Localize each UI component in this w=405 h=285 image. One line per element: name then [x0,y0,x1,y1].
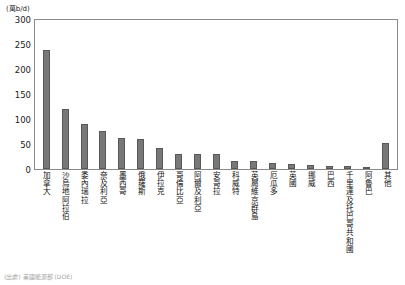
bar-chart-figure: (萬b/d) 300 250 200 150 100 50 0 加拿大沙烏地阿拉… [0,0,405,285]
bar-slot [320,20,339,169]
x-axis-tick-label: 委內瑞拉 [80,171,88,204]
x-axis-label-slot: 千里達及托巴哥共和國 [339,171,358,263]
bar [62,109,69,169]
x-axis-label-slot: 其他 [377,171,396,263]
x-axis-label-slot: 安哥拉 [207,171,226,263]
bar-slot [131,20,150,169]
x-axis-tick-label: 加拿大 [42,171,50,196]
x-axis-tick-label: 伊拉克 [155,171,163,196]
bar-slot [169,20,188,169]
x-axis-label-slot: 俄羅斯 [131,171,150,263]
bar [326,166,333,169]
bar [213,154,220,169]
bar-slot [244,20,263,169]
x-axis-tick-label: 俄羅斯 [136,171,144,196]
x-axis-tick-label: 沙烏地阿拉伯 [61,171,69,220]
bar [382,143,389,169]
bar [99,131,106,169]
bar [194,154,201,169]
bar-slot [225,20,244,169]
x-axis-tick-label: 奈及利亞 [98,171,106,204]
y-axis-tick-label: 0 [5,165,31,175]
bar-slot [37,20,56,169]
bar-slot [301,20,320,169]
bar [137,139,144,169]
x-axis-label-slot: 哥倫比亞 [169,171,188,263]
x-axis-tick-label: 巴西 [326,171,334,187]
y-axis-tick-label: 300 [5,15,31,25]
bar [288,164,295,169]
plot-area [34,19,398,170]
y-axis-tick-label: 150 [5,90,31,100]
bar [344,166,351,169]
bar [43,50,50,169]
x-axis-label-slot: 奈及利亞 [93,171,112,263]
x-axis-tick-label: 墨西哥 [117,171,125,196]
x-axis-tick-label: 阿爾及利亞 [193,171,201,212]
bar-slot [339,20,358,169]
x-axis-labels: 加拿大沙烏地阿拉伯委內瑞拉奈及利亞墨西哥俄羅斯伊拉克哥倫比亞阿爾及利亞安哥拉科威… [34,171,398,263]
x-axis-label-slot: 科威特 [226,171,245,263]
bar-slot [150,20,169,169]
x-axis-label-slot: 伊拉克 [150,171,169,263]
bar-slot [75,20,94,169]
x-axis-label-slot: 加拿大 [36,171,55,263]
y-axis-tick-label: 50 [5,140,31,150]
x-axis-label-slot: 英屬維京群島 [244,171,263,263]
y-axis-tick-label: 200 [5,65,31,75]
x-axis-tick-label: 其他 [383,171,391,187]
x-axis-label-slot: 沙烏地阿拉伯 [55,171,74,263]
bar [118,138,125,169]
bar-slot [112,20,131,169]
bar-slot [56,20,75,169]
bar-slot [207,20,226,169]
bar-slot [282,20,301,169]
bar [175,154,182,169]
x-axis-tick-label: 阿魯巴 [364,171,372,196]
bar-slot [357,20,376,169]
x-axis-label-slot: 巴西 [320,171,339,263]
bar [156,148,163,169]
x-axis-label-slot: 英國 [282,171,301,263]
y-axis-unit-label: (萬b/d) [6,3,30,13]
x-axis-tick-label: 英屬維京群島 [250,171,258,220]
source-note: (出處) 美國能源部 (DOE) [4,272,72,281]
x-axis-tick-label: 厄瓜多 [269,171,277,196]
y-axis-tick-label: 100 [5,115,31,125]
x-axis-tick-label: 千里達及托巴哥共和國 [345,171,353,253]
bar [269,163,276,169]
x-axis-label-slot: 委內瑞拉 [74,171,93,263]
x-axis-tick-label: 挪威 [307,171,315,187]
bar-series [35,20,397,169]
x-axis-label-slot: 阿魯巴 [358,171,377,263]
bar-slot [94,20,113,169]
bar-slot [263,20,282,169]
bar-slot [188,20,207,169]
bar-slot [376,20,395,169]
bar [231,161,238,169]
x-axis-label-slot: 墨西哥 [112,171,131,263]
x-axis-tick-label: 哥倫比亞 [174,171,182,204]
x-axis-tick-label: 科威特 [231,171,239,196]
bar [250,161,257,169]
bar [363,167,370,169]
x-axis-label-slot: 阿爾及利亞 [188,171,207,263]
x-axis-label-slot: 挪威 [301,171,320,263]
x-axis-tick-label: 安哥拉 [212,171,220,196]
bar [81,124,88,169]
x-axis-label-slot: 厄瓜多 [263,171,282,263]
bar [307,165,314,169]
x-axis-tick-label: 英國 [288,171,296,187]
y-axis-tick-label: 250 [5,40,31,50]
